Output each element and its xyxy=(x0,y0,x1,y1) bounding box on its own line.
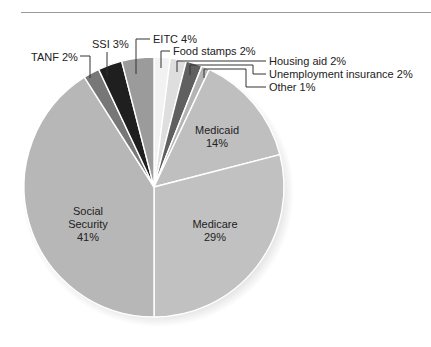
pie-slices xyxy=(24,57,284,317)
callout-label-other: Other 1% xyxy=(269,81,316,93)
callout-label-unemployment-insurance: Unemployment insurance 2% xyxy=(269,68,413,80)
pie-chart: Medicaid14%Medicare29%SocialSecurity41% … xyxy=(0,0,431,347)
callout-label-food-stamps: Food stamps 2% xyxy=(173,45,256,57)
callout-label-housing-aid: Housing aid 2% xyxy=(269,55,346,67)
chart-container: Medicaid14%Medicare29%SocialSecurity41% … xyxy=(0,0,431,347)
callout-label-eitc: EITC 4% xyxy=(153,33,197,45)
callout-label-ssi: SSI 3% xyxy=(92,38,129,50)
callout-tanf: TANF 2% xyxy=(31,51,90,78)
callout-label-tanf: TANF 2% xyxy=(31,51,78,63)
